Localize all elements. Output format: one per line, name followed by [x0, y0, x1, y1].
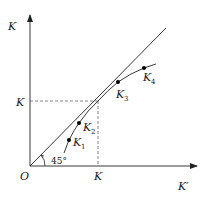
point-k3: [116, 80, 120, 84]
svg-text:3: 3: [124, 95, 128, 103]
origin-label: O: [20, 170, 29, 183]
label-k3: K 3: [115, 88, 128, 103]
svg-text:4: 4: [151, 78, 156, 86]
label-k1: K 1: [72, 136, 85, 151]
diagram-canvas: K K′ O K K 45° K 1 K 2 K 3 K 4: [0, 0, 205, 198]
steady-state-y-label: K: [15, 96, 25, 109]
label-k4: K 4: [142, 71, 156, 86]
angle-label: 45°: [51, 156, 67, 166]
point-k4: [142, 66, 146, 70]
angle-arc: [41, 155, 45, 166]
svg-text:1: 1: [81, 143, 85, 151]
steady-state-x-label: K: [93, 170, 103, 183]
forty-five-degree-line: [30, 28, 166, 166]
x-axis-label: K′: [177, 180, 189, 193]
point-k1: [67, 138, 71, 142]
svg-text:2: 2: [91, 128, 95, 136]
y-axis-label: K: [7, 20, 17, 33]
label-k2: K 2: [82, 121, 95, 136]
point-k2: [77, 121, 81, 125]
